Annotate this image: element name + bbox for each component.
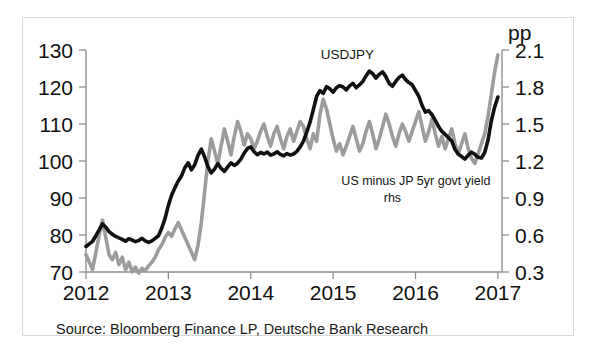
chart-frame: 708090100110120130 0.30.60.91.21.51.82.1… <box>22 17 574 336</box>
left-tick-label: 80 <box>50 224 73 247</box>
left-tick-label: 110 <box>40 113 73 136</box>
x-tick-label: 2016 <box>392 281 439 304</box>
source-note: Source: Bloomberg Finance LP, Deutsche B… <box>56 321 428 337</box>
right-tick-label: 1.5 <box>515 113 544 136</box>
x-axis-ticks: 201220132014201520162017 <box>63 272 522 304</box>
series-label-usdjpy: USDJPY <box>321 47 374 62</box>
x-tick-label: 2012 <box>63 281 110 304</box>
right-tick-label: 1.2 <box>515 150 544 173</box>
series-label-rhs: rhs <box>384 191 401 205</box>
left-axis-ticks: 708090100110120130 <box>38 39 86 284</box>
chart-canvas: 708090100110120130 0.30.60.91.21.51.82.1… <box>0 0 594 359</box>
x-tick-label: 2013 <box>145 281 192 304</box>
left-tick-label: 130 <box>38 39 73 62</box>
series-label-spread: US minus JP 5yr govt yield <box>341 174 490 188</box>
x-tick-label: 2015 <box>310 281 357 304</box>
left-tick-label: 120 <box>38 76 73 99</box>
right-axis-ticks: 0.30.60.91.21.51.82.1 <box>502 39 544 284</box>
right-tick-label: 1.8 <box>515 76 544 99</box>
x-tick-label: 2014 <box>227 281 274 304</box>
left-tick-label: 90 <box>50 187 73 210</box>
series-line-usdjpy <box>86 71 498 246</box>
chart-figure: 708090100110120130 0.30.60.91.21.51.82.1… <box>0 0 594 359</box>
right-axis-unit-label: pp <box>508 21 531 44</box>
x-tick-label: 2017 <box>475 281 522 304</box>
left-tick-label: 100 <box>38 150 73 173</box>
right-tick-label: 0.6 <box>515 224 544 247</box>
right-tick-label: 0.9 <box>515 187 544 210</box>
